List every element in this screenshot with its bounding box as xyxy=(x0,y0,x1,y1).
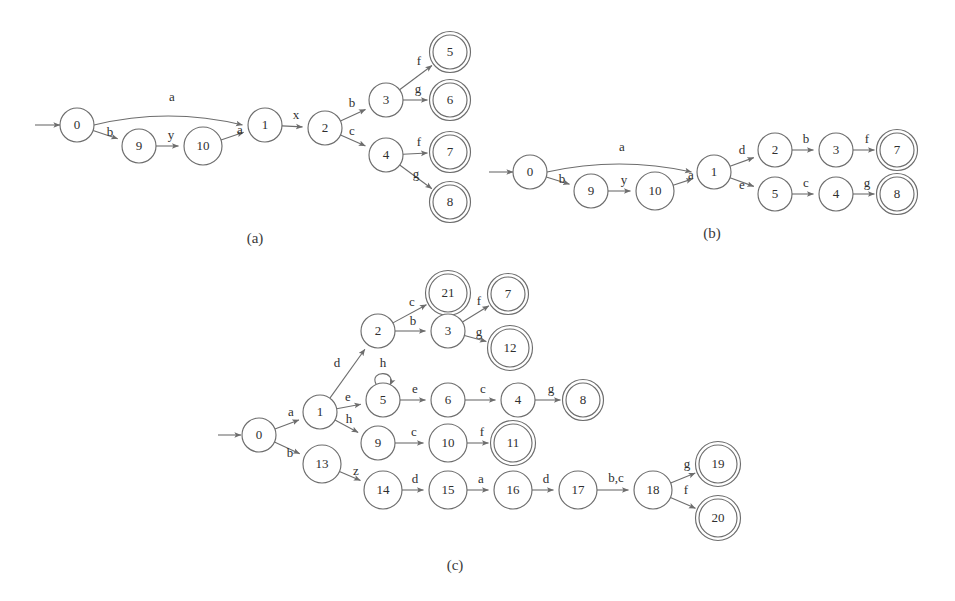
edge-2-to-3: b xyxy=(340,95,365,121)
edge-1-to-5: e xyxy=(730,177,754,192)
edge-6-to-4: c xyxy=(465,381,496,400)
state-node-5[interactable]: 5 xyxy=(758,177,792,211)
state-node-8[interactable]: 8 xyxy=(430,182,471,223)
edge-label: f xyxy=(480,424,485,439)
edge-label: z xyxy=(353,463,359,478)
state-label: 6 xyxy=(447,92,454,107)
edge-1-to-2: x xyxy=(282,107,303,127)
edge-label: a xyxy=(169,89,175,104)
state-label: 3 xyxy=(833,142,840,157)
state-node-8[interactable]: 8 xyxy=(877,174,918,215)
state-node-7[interactable]: 7 xyxy=(488,274,529,315)
state-node-0[interactable]: 0 xyxy=(60,108,94,142)
state-label: 10 xyxy=(649,183,662,198)
state-node-9[interactable]: 9 xyxy=(122,129,156,163)
state-node-0[interactable]: 0 xyxy=(242,418,276,452)
edge-2-to-3: b xyxy=(395,313,426,331)
edge-15-to-16: a xyxy=(467,471,489,490)
edge-9-to-10: c xyxy=(395,424,424,443)
state-node-21[interactable]: 21 xyxy=(426,271,471,316)
state-node-14[interactable]: 14 xyxy=(364,471,402,509)
state-node-10[interactable]: 10 xyxy=(184,127,222,165)
state-label: 6 xyxy=(445,392,452,407)
state-node-3[interactable]: 3 xyxy=(431,314,465,348)
state-node-10[interactable]: 10 xyxy=(636,172,674,210)
edge-path xyxy=(94,116,243,125)
state-node-7[interactable]: 7 xyxy=(430,132,471,173)
edge-label: c xyxy=(803,175,809,190)
state-label: 9 xyxy=(588,183,595,198)
state-node-2[interactable]: 2 xyxy=(758,133,792,167)
edge-label: b xyxy=(107,124,114,139)
edge-1-to-9: h xyxy=(335,411,358,432)
state-node-13[interactable]: 13 xyxy=(303,445,341,483)
state-node-4[interactable]: 4 xyxy=(501,383,535,417)
state-node-0[interactable]: 0 xyxy=(513,155,547,189)
edge-3-to-7: f xyxy=(853,131,875,150)
edge-label: y xyxy=(168,127,175,142)
state-label: 13 xyxy=(316,456,329,471)
state-node-18[interactable]: 18 xyxy=(634,471,672,509)
edge-5-to-5: h xyxy=(375,355,391,385)
edge-path xyxy=(282,126,303,127)
edge-18-to-20: f xyxy=(670,482,695,508)
edge-label: f xyxy=(865,131,870,146)
edge-label: h xyxy=(380,355,387,370)
state-node-8[interactable]: 8 xyxy=(563,380,604,421)
state-node-4[interactable]: 4 xyxy=(819,177,853,211)
state-node-3[interactable]: 3 xyxy=(369,83,403,117)
edge-0-to-1: a xyxy=(547,139,692,172)
state-node-15[interactable]: 15 xyxy=(429,471,467,509)
state-node-9[interactable]: 9 xyxy=(361,426,395,460)
edge-path xyxy=(462,306,488,322)
state-node-12[interactable]: 12 xyxy=(488,326,533,371)
state-node-3[interactable]: 3 xyxy=(819,133,853,167)
state-node-20[interactable]: 20 xyxy=(696,496,741,541)
caption-a: (a) xyxy=(247,230,264,247)
edge-label: f xyxy=(417,134,422,149)
edge-label: f xyxy=(477,293,482,308)
edge-14-to-15: d xyxy=(402,471,424,490)
state-node-6[interactable]: 6 xyxy=(431,383,465,417)
state-node-11[interactable]: 11 xyxy=(491,421,536,466)
state-node-4[interactable]: 4 xyxy=(369,138,403,172)
edge-9-to-10: y xyxy=(156,127,179,146)
state-node-16[interactable]: 16 xyxy=(494,471,532,509)
edge-label: a xyxy=(619,139,625,154)
state-label: 4 xyxy=(833,186,840,201)
state-label: 1 xyxy=(317,404,324,419)
state-label: 2 xyxy=(375,323,382,338)
state-node-19[interactable]: 19 xyxy=(696,442,741,487)
state-node-2[interactable]: 2 xyxy=(361,314,395,348)
state-node-9[interactable]: 9 xyxy=(574,174,608,208)
state-label: 9 xyxy=(375,435,382,450)
state-node-1[interactable]: 1 xyxy=(303,395,337,429)
state-label: 16 xyxy=(507,482,521,497)
edge-2-to-3: b xyxy=(792,131,814,150)
edge-0-to-13: b xyxy=(274,442,299,460)
edge-0-to-9: b xyxy=(546,171,569,186)
diagram-a: abyaxbcfgfg091012345678 xyxy=(35,32,471,223)
edge-0-to-1: a xyxy=(275,404,299,429)
state-node-1[interactable]: 1 xyxy=(697,155,731,189)
state-node-5[interactable]: 5 xyxy=(430,32,471,73)
edge-5-to-4: c xyxy=(792,175,814,194)
edge-label: g xyxy=(684,456,691,471)
state-label: 5 xyxy=(447,44,454,59)
state-node-5[interactable]: 5 xyxy=(366,383,400,417)
state-node-10[interactable]: 10 xyxy=(429,424,467,462)
state-node-6[interactable]: 6 xyxy=(430,80,471,121)
edge-path xyxy=(340,109,365,121)
edge-label: c xyxy=(411,424,417,439)
diagram-b-nodes: 09101237548 xyxy=(513,130,918,215)
state-node-1[interactable]: 1 xyxy=(248,108,282,142)
state-node-7[interactable]: 7 xyxy=(877,130,918,171)
state-label: 12 xyxy=(504,340,517,355)
state-label: 19 xyxy=(712,456,725,471)
edge-label: a xyxy=(688,167,694,182)
state-node-2[interactable]: 2 xyxy=(308,111,342,145)
automata-figure-canvas: abyaxbcfgfg091012345678abyadebfcg0910123… xyxy=(0,0,955,601)
state-label: 4 xyxy=(383,147,390,162)
state-node-17[interactable]: 17 xyxy=(559,471,597,509)
edge-path xyxy=(730,158,754,167)
